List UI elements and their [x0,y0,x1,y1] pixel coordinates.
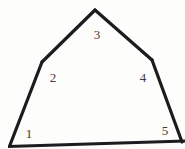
edge-3-4 [95,10,152,60]
vertex-label-4: 4 [140,71,147,84]
edge-5-1-baseline [8,141,185,147]
vertex-label-5: 5 [162,124,169,137]
pentagon-figure: 1 2 3 4 5 [0,0,185,149]
vertex-label-3: 3 [94,28,101,41]
edge-2-3 [42,10,95,62]
vertex-label-2: 2 [50,71,57,84]
vertex-label-1: 1 [26,127,33,140]
